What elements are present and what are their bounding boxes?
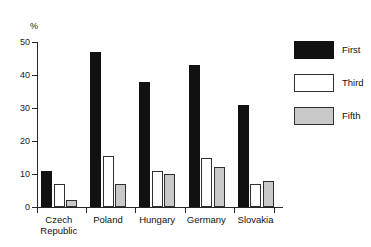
bar-first-hungary [139, 82, 150, 207]
legend-label-third: Third [342, 78, 364, 88]
bar-first-poland [90, 52, 101, 207]
y-axis-tick-label: 0 [10, 203, 30, 212]
x-axis-tick [86, 208, 87, 213]
x-axis-label-slovakia: Slovakia [226, 214, 286, 225]
legend-swatch-third [294, 74, 334, 92]
legend-item-fifth[interactable]: Fifth [294, 106, 364, 125]
x-axis-label-line: Republic [29, 225, 89, 236]
bar-third-germany [201, 158, 212, 208]
y-axis-tick-label: 40 [10, 71, 30, 80]
x-axis-label-line: Poland [93, 214, 123, 225]
chart-legend: FirstThirdFifth [294, 40, 364, 139]
x-axis-tick [234, 208, 235, 213]
x-axis-tick [37, 208, 38, 213]
y-axis-tick [32, 141, 38, 142]
x-axis-tick [274, 208, 275, 213]
y-axis-tick-label: 20 [10, 137, 30, 146]
y-axis-tick [32, 174, 38, 175]
y-axis-tick [32, 75, 38, 76]
y-axis-tick [32, 42, 38, 43]
legend-item-first[interactable]: First [294, 40, 364, 59]
y-axis-tick-label: 30 [10, 104, 30, 113]
bar-chart: % 01020304050 CzechRepublicPolandHungary… [0, 0, 371, 247]
y-axis-tick-label: 10 [10, 170, 30, 179]
bar-fifth-czech-republic [66, 200, 77, 207]
bar-fifth-poland [115, 184, 126, 207]
y-axis-unit-label: % [30, 22, 38, 31]
bar-third-poland [103, 156, 114, 207]
x-axis-tick [135, 208, 136, 213]
x-axis-label-line: Czech [45, 214, 72, 225]
legend-label-first: First [342, 45, 360, 55]
x-axis-label-line: Hungary [139, 214, 175, 225]
y-axis-tick [32, 108, 38, 109]
x-axis-tick [185, 208, 186, 213]
bar-third-hungary [152, 171, 163, 207]
x-axis-line [37, 207, 283, 208]
bar-first-czech-republic [41, 171, 52, 207]
bar-first-germany [189, 65, 200, 207]
bar-fifth-slovakia [263, 181, 274, 207]
x-axis-label-line: Slovakia [238, 214, 274, 225]
bar-fifth-hungary [164, 174, 175, 207]
legend-swatch-fifth [294, 107, 334, 125]
y-axis-tick-label: 50 [10, 38, 30, 47]
bar-fifth-germany [214, 167, 225, 207]
legend-label-fifth: Fifth [342, 111, 360, 121]
legend-item-third[interactable]: Third [294, 73, 364, 92]
legend-swatch-first [294, 41, 334, 59]
x-axis-label-line: Germany [187, 214, 226, 225]
bar-first-slovakia [238, 105, 249, 207]
y-axis-line [37, 42, 38, 208]
bar-third-czech-republic [54, 184, 65, 207]
bar-third-slovakia [250, 184, 261, 207]
